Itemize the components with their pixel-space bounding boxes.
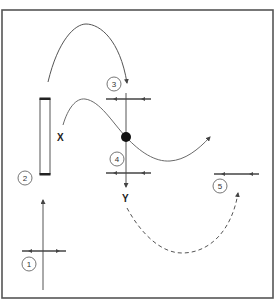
diagram-svg: X Y xyxy=(0,0,276,302)
crossbar-1 xyxy=(22,249,66,253)
step-badge-5: 5 xyxy=(213,179,227,193)
step-badge-3: 3 xyxy=(107,77,121,91)
crossbar-3 xyxy=(106,97,151,101)
step-badge-4: 4 xyxy=(110,152,124,166)
step-badge-2: 2 xyxy=(18,171,32,185)
svg-text:2: 2 xyxy=(23,174,28,183)
diagram-canvas: X Y xyxy=(0,0,276,302)
svg-text:3: 3 xyxy=(112,80,117,89)
dashed-return-arrow xyxy=(127,193,238,253)
y-label: Y xyxy=(122,193,129,204)
crossbar-5 xyxy=(214,172,259,176)
svg-text:1: 1 xyxy=(27,260,32,269)
cylinder-icon xyxy=(40,98,51,176)
top-arc-arrow xyxy=(48,24,127,83)
s-curve-arrow xyxy=(63,99,210,161)
x-label: X xyxy=(57,132,64,143)
step-badge-1: 1 xyxy=(22,257,36,271)
contact-dot xyxy=(121,132,131,142)
svg-text:4: 4 xyxy=(115,155,120,164)
crossbar-4 xyxy=(106,171,151,175)
svg-text:5: 5 xyxy=(218,182,223,191)
